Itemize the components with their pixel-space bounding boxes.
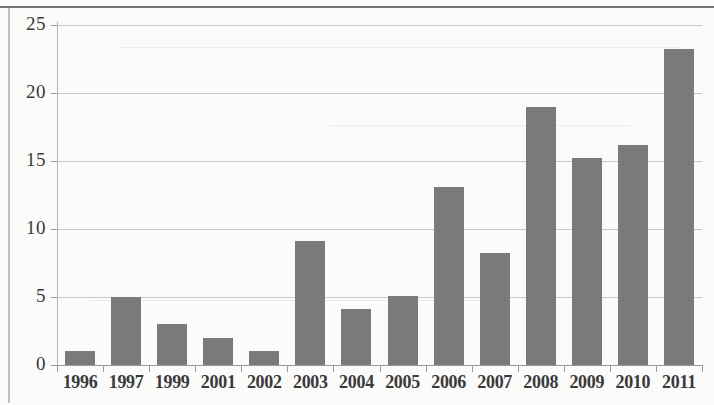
- gridline: [57, 25, 702, 26]
- chart-page: 0510152025 19961997199920012002200320042…: [0, 0, 714, 405]
- bar: [111, 297, 141, 365]
- bar: [618, 145, 648, 365]
- x-axis-tick-label: 2006: [426, 372, 472, 393]
- gridline: [57, 161, 702, 162]
- bar: [480, 253, 510, 365]
- bar: [664, 49, 694, 365]
- x-axis-tick-label: 2009: [564, 372, 610, 393]
- x-axis-tick-label: 2011: [656, 372, 702, 393]
- x-axis-tick-label: 2010: [610, 372, 656, 393]
- scan-top-rule: [0, 6, 714, 8]
- x-axis-tick-label: 2004: [333, 372, 379, 393]
- bar: [341, 309, 371, 365]
- y-axis-tick-label: 5: [6, 285, 46, 307]
- bar: [203, 338, 233, 365]
- x-axis-tick-label: 2008: [518, 372, 564, 393]
- bar: [572, 158, 602, 365]
- x-axis-tick-mark: [702, 366, 703, 372]
- y-axis-tick-label: 25: [6, 13, 46, 35]
- y-axis-tick-label: 10: [6, 217, 46, 239]
- scan-left-rule: [8, 8, 10, 403]
- bar: [434, 187, 464, 365]
- x-axis-tick-label: 1997: [103, 372, 149, 393]
- plot-area: [57, 25, 702, 365]
- gridline: [57, 297, 702, 298]
- bar: [388, 296, 418, 365]
- x-axis-tick-label: 2007: [472, 372, 518, 393]
- x-axis-tick-label: 2001: [195, 372, 241, 393]
- bar: [65, 351, 95, 365]
- gridline: [57, 93, 702, 94]
- x-axis-tick-label: 2003: [287, 372, 333, 393]
- bar: [295, 241, 325, 365]
- bar: [157, 324, 187, 365]
- x-axis-tick-label: 2005: [380, 372, 426, 393]
- gridline: [57, 229, 702, 230]
- bar: [249, 351, 279, 365]
- y-axis-tick-label: 15: [6, 149, 46, 171]
- x-axis-tick-label: 1999: [149, 372, 195, 393]
- x-axis-tick-label: 1996: [57, 372, 103, 393]
- bar: [526, 107, 556, 365]
- y-axis-tick-label: 0: [6, 353, 46, 375]
- x-axis-tick-label: 2002: [241, 372, 287, 393]
- y-axis-tick-label: 20: [6, 81, 46, 103]
